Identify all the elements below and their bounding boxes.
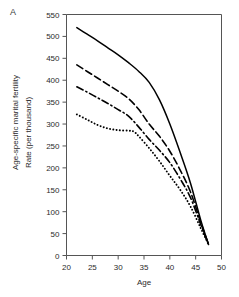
figure-panel-a: A Age-specific marital fertility Rate (p… [0, 0, 239, 297]
y-tick-label: 350 [46, 98, 60, 107]
series-line-3 [77, 87, 209, 245]
x-tick-label: 20 [62, 263, 71, 272]
y-tick-label: 200 [46, 164, 60, 173]
x-axis-ticks: 20253035404550 [62, 256, 226, 272]
y-tick-label: 300 [46, 120, 60, 129]
y-tick-label: 500 [46, 32, 60, 41]
series-line-2 [77, 65, 209, 245]
y-tick-label: 0 [55, 252, 60, 261]
x-tick-label: 40 [165, 263, 174, 272]
x-tick-label: 50 [217, 263, 226, 272]
series-line-1 [77, 28, 209, 245]
y-tick-label: 100 [46, 208, 60, 217]
y-tick-label: 250 [46, 142, 60, 151]
x-tick-label: 25 [88, 263, 97, 272]
x-tick-label: 45 [191, 263, 200, 272]
x-tick-label: 35 [140, 263, 149, 272]
series-group [77, 28, 209, 245]
y-tick-label: 50 [51, 230, 60, 239]
y-tick-label: 400 [46, 76, 60, 85]
y-axis-ticks: 050100150200250300350400450500550 [46, 11, 66, 261]
x-tick-label: 30 [114, 263, 123, 272]
y-tick-label: 450 [46, 54, 60, 63]
line-chart-plot: 050100150200250300350400450500550 202530… [0, 0, 239, 297]
y-tick-label: 150 [46, 186, 60, 195]
y-tick-label: 550 [46, 11, 60, 20]
